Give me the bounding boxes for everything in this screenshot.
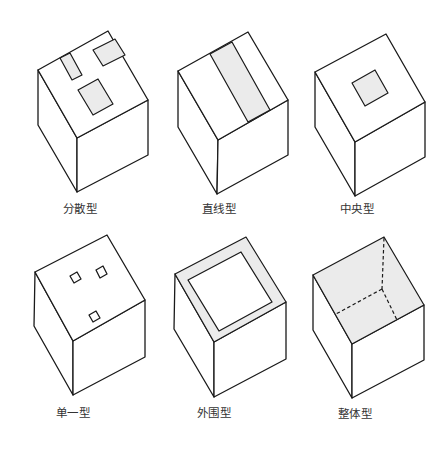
cube-central xyxy=(315,34,425,196)
cube-distributed xyxy=(38,31,148,192)
label-linear: 直线型 xyxy=(202,200,237,216)
cube-overall xyxy=(313,237,424,398)
label-overall: 整体型 xyxy=(338,405,373,421)
label-distributed: 分散型 xyxy=(63,200,98,216)
label-single: 单一型 xyxy=(56,404,91,420)
cube-single xyxy=(34,235,145,395)
cube-peripheral xyxy=(174,237,286,397)
label-peripheral: 外围型 xyxy=(197,404,232,420)
roof-type-diagram xyxy=(0,0,445,450)
label-central: 中央型 xyxy=(340,200,375,216)
cube-linear xyxy=(178,32,288,194)
